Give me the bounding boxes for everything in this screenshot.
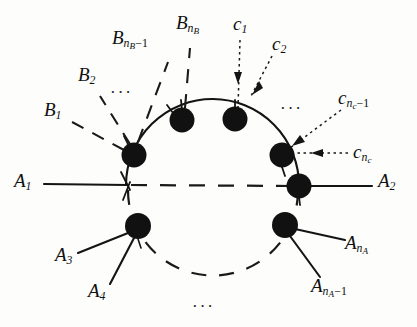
arrow-c1	[234, 40, 242, 108]
label-b-nb-minus-1-sub: nB	[124, 37, 136, 50]
label-a1: A1	[14, 171, 32, 193]
leg-a4	[110, 238, 134, 284]
ellipsis-bottom: ···	[192, 298, 215, 315]
label-b-nb-minus-1-base: B	[112, 27, 124, 48]
label-b-nb-subsub: B	[194, 26, 200, 36]
figure-root: A1 A2 A3 A4 AnA AnA−1 B1 B2 BnB−1 BnB c1…	[0, 0, 417, 327]
label-a1-sub: 1	[26, 180, 32, 193]
label-a4: A4	[88, 281, 106, 303]
label-c1: c1	[233, 14, 247, 36]
vertex-b1	[122, 143, 147, 168]
vertex-a2	[287, 174, 312, 199]
label-b2-base: B	[78, 64, 90, 85]
ellipsis-upper-left: ···	[110, 84, 133, 101]
label-c-nc: cnc	[353, 142, 372, 166]
label-a3-base: A	[55, 244, 67, 265]
leg-b1	[72, 122, 124, 150]
label-c-nc-minus-1-sub: nc	[346, 97, 356, 110]
label-a-na-sub: nA	[357, 242, 369, 255]
label-b1-base: B	[44, 99, 56, 120]
label-c2: c2	[272, 34, 286, 56]
leg-a-na	[295, 229, 345, 240]
leg-a-na-minus-1	[290, 236, 320, 277]
label-b-nb-minus-1-op: −1	[135, 37, 148, 50]
ellipsis-upper-right: ···	[280, 100, 303, 117]
label-a3-sub: 3	[67, 254, 73, 267]
circle-lower-arc	[128, 190, 298, 276]
label-b-nb: BnB	[176, 13, 199, 37]
leg-a1	[44, 184, 128, 185]
arrow-c2	[250, 56, 272, 98]
label-a-na-base: A	[345, 232, 357, 253]
label-b-nb-base: B	[176, 12, 188, 33]
leg-a3	[78, 233, 128, 253]
vertex-a3a4	[125, 213, 151, 239]
label-b1: B1	[44, 100, 62, 122]
label-a-na-minus-1: AnA−1	[311, 276, 347, 300]
label-a2-base: A	[378, 170, 390, 191]
label-a1-base: A	[14, 170, 26, 191]
vertex-bnb	[223, 107, 248, 132]
label-c-nc-minus-1: cnc−1	[338, 88, 369, 112]
label-c-nc-subsub: c	[367, 155, 371, 165]
label-b-nb-sub: nB	[188, 22, 200, 35]
label-c-nc-minus-1-op: −1	[357, 97, 370, 110]
label-a2: A2	[378, 171, 396, 193]
leg-b-nb-minus-1	[138, 62, 168, 142]
circle-upper-arc	[126, 99, 299, 186]
label-c2-sub: 2	[280, 43, 286, 56]
label-b2-sub: 2	[90, 74, 96, 87]
label-a-na-minus-1-sub: nA	[323, 285, 335, 298]
label-a4-sub: 4	[100, 290, 106, 303]
vertex-bnb-minus-1	[170, 108, 195, 133]
arrow-c-nc	[293, 149, 348, 157]
label-a4-base: A	[88, 280, 100, 301]
label-c1-sub: 1	[241, 23, 247, 36]
vertex-ana	[272, 212, 298, 238]
label-a-na: AnA	[345, 233, 368, 257]
label-a-na-subsub: A	[363, 246, 369, 256]
leg-b2	[100, 96, 130, 144]
label-a3: A3	[55, 245, 73, 267]
label-b1-sub: 1	[56, 109, 62, 122]
label-a-na-minus-1-op: −1	[334, 285, 347, 298]
leg-b-nb	[185, 48, 190, 108]
vertex-cnc	[270, 143, 295, 168]
label-c-nc-sub: nc	[361, 151, 371, 164]
label-b2: B2	[78, 65, 96, 87]
horizontal-dashed-chord	[131, 185, 293, 186]
label-a-na-minus-1-base: A	[311, 275, 323, 296]
label-b-nb-minus-1: BnB−1	[112, 28, 148, 52]
label-a2-sub: 2	[390, 180, 396, 193]
